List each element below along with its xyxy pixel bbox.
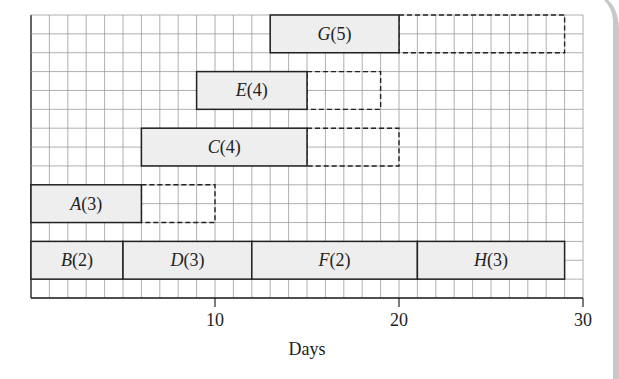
activity-bar-e: E(4) [197, 72, 307, 110]
gantt-chart: A(3)B(2)C(4)D(3)E(4)F(2)G(5)H(3) 10 20 3… [0, 0, 619, 379]
activity-bar-c: C(4) [141, 128, 307, 166]
tick-label-30: 30 [574, 310, 592, 330]
x-axis-label: Days [289, 339, 326, 359]
activity-bar-b: B(2) [31, 241, 123, 279]
bar-label: F(2) [318, 250, 351, 271]
bar-label: C(4) [208, 137, 241, 158]
page-edge-shadow [604, 0, 619, 379]
bar-label: G(5) [318, 24, 352, 45]
tick-label-20: 20 [390, 310, 408, 330]
activity-bar-h: H(3) [417, 241, 564, 279]
activity-bar-g: G(5) [270, 15, 399, 53]
bar-label: A(3) [69, 194, 102, 215]
activity-bar-a: A(3) [31, 185, 141, 223]
tick-label-10: 10 [206, 310, 224, 330]
bar-label: H(3) [473, 250, 508, 271]
bar-label: E(4) [235, 80, 268, 101]
activity-bar-f: F(2) [252, 241, 418, 279]
x-axis: 10 20 30 Days [31, 298, 592, 359]
activity-bar-d: D(3) [123, 241, 252, 279]
bar-label: B(2) [61, 250, 93, 271]
bar-label: D(3) [169, 250, 204, 271]
